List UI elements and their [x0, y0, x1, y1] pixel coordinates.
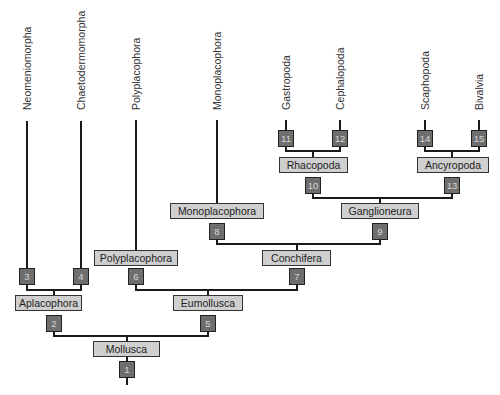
branch-neomeniomorpha — [26, 121, 28, 269]
phylogenetic-tree: Neomeniomorpha Chaetodermomorpha Polypla… — [0, 0, 500, 395]
node-12: 12 — [332, 130, 348, 147]
leaf-label-chaetodermomorpha: Chaetodermomorpha — [75, 11, 87, 110]
clade-box-rhacopoda: Rhacopoda — [279, 157, 348, 173]
node-9: 9 — [372, 223, 388, 240]
branch-polyplacophora — [135, 120, 137, 251]
node-1: 1 — [119, 361, 135, 378]
node-15: 15 — [471, 130, 487, 147]
join-mollusca — [53, 335, 209, 337]
leaf-label-monoplacophora: Monoplacophora — [211, 32, 223, 110]
leaf-label-polyplacophora: Polyplacophora — [130, 38, 142, 110]
leaf-label-gastropoda: Gastropoda — [280, 55, 292, 110]
clade-box-monoplacophora: Monoplacophora — [170, 203, 264, 219]
node-8: 8 — [209, 223, 225, 240]
clade-box-mollusca: Mollusca — [93, 341, 160, 357]
node-4: 4 — [73, 268, 89, 285]
node-10: 10 — [305, 177, 321, 194]
clade-box-polyplacophora: Polyplacophora — [94, 250, 178, 266]
join-conchifera — [216, 243, 381, 245]
clade-box-eumollusca: Eumollusca — [173, 295, 243, 311]
node-14: 14 — [417, 130, 433, 147]
node-6: 6 — [128, 268, 144, 285]
clade-box-ganglioneura: Ganglioneura — [341, 203, 419, 219]
leaf-label-scaphopoda: Scaphopoda — [419, 51, 431, 110]
leaf-label-neomeniomorpha: Neomeniomorpha — [21, 27, 33, 110]
join-ganglioneura — [312, 197, 453, 199]
clade-box-conchifera: Conchifera — [262, 250, 331, 266]
node-3: 3 — [19, 268, 35, 285]
leaf-label-bivalvia: Bivalvia — [473, 74, 485, 110]
branch-chaetodermomorpha — [80, 121, 82, 269]
branch-monoplacophora — [216, 120, 218, 204]
leaf-label-cephalopoda: Cephalopoda — [334, 48, 346, 110]
clade-box-ancyropoda: Ancyropoda — [417, 157, 489, 173]
node-13: 13 — [444, 177, 460, 194]
node-2: 2 — [46, 315, 62, 332]
join-eumollusca — [135, 289, 298, 291]
clade-box-aplacophora: Aplacophora — [15, 295, 82, 311]
node-5: 5 — [200, 315, 216, 332]
node-7: 7 — [289, 268, 305, 285]
node-11: 11 — [278, 130, 294, 147]
